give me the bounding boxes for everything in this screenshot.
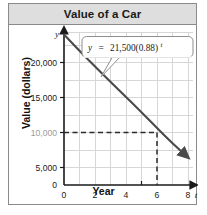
equation-equals: = — [98, 43, 103, 53]
chart-card: Value of a Car — [8, 3, 197, 205]
y-tick-label-5000: 5,000 — [35, 163, 57, 173]
chart-svg: 20,000 15,000 10,000 5,000 0 0 2 4 6 8 y… — [9, 25, 198, 205]
y-tick-labels: 20,000 15,000 10,000 5,000 0 — [31, 58, 58, 190]
equation-lhs: y — [87, 43, 93, 53]
chart-title-bar: Value of a Car — [9, 4, 196, 25]
x-axis-title: Year — [9, 185, 198, 197]
y-axis-title: Value (dollars) — [20, 38, 32, 148]
figure-container: Value of a Car — [0, 0, 207, 215]
y-tick-label-15000: 15,000 — [31, 93, 58, 103]
page-title: Value of a Car — [64, 8, 141, 20]
plot-area: 20,000 15,000 10,000 5,000 0 0 2 4 6 8 y… — [9, 25, 196, 205]
y-tick-label-10000: 10,000 — [31, 128, 58, 138]
equation-coefficient: 21,500(0.88) — [110, 43, 158, 54]
axis-ticks — [60, 63, 142, 186]
equation-text: y = 21,500(0.88) t — [87, 41, 163, 54]
y-tick-label-20000: 20,000 — [31, 58, 58, 68]
y-axis-variable: y — [54, 29, 59, 39]
